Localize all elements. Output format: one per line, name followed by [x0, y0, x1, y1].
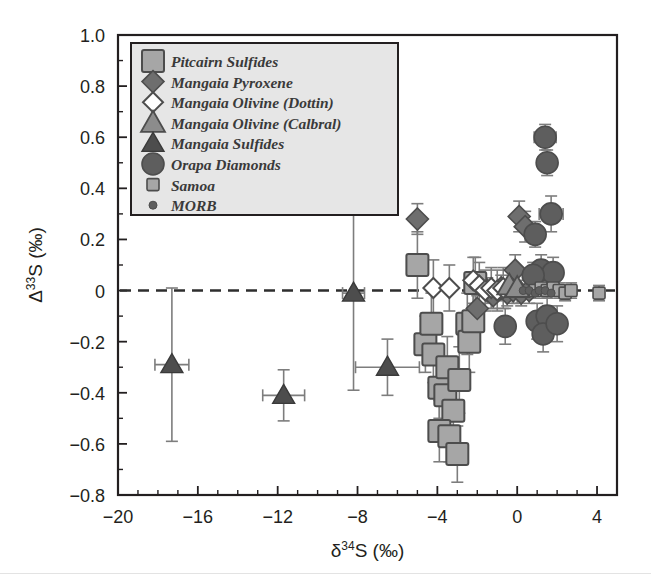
x-tick-label: −16	[183, 507, 214, 527]
data-point	[534, 126, 556, 148]
y-tick-label: −0.8	[69, 486, 105, 506]
plot-canvas: −20−16−12−8−404−0.8−0.6−0.4−0.200.20.40.…	[0, 0, 651, 587]
data-point	[542, 262, 564, 284]
legend-label: Samoa	[171, 177, 215, 194]
legend-marker-icon	[142, 50, 164, 72]
data-point	[448, 369, 470, 391]
data-point	[494, 315, 516, 337]
y-tick-label: 0	[95, 282, 105, 302]
legend-label: Mangaia Sulfides	[170, 135, 284, 152]
legend-label: Mangaia Pyroxene	[170, 74, 293, 91]
y-tick-label: −0.6	[69, 435, 105, 455]
data-point	[420, 313, 442, 335]
legend-label: Mangaia Olivine (Dottin)	[170, 94, 334, 112]
data-point	[540, 203, 562, 225]
x-axis-label: δ34S (‰)	[331, 539, 405, 561]
x-tick-label: −8	[347, 507, 368, 527]
data-point	[547, 289, 555, 297]
data-point	[593, 287, 605, 299]
legend-item-mangaia-olivine-dottin-[interactable]: Mangaia Olivine (Dottin)	[143, 92, 334, 112]
legend-item-pitcairn-sulfides[interactable]: Pitcairn Sulfides	[142, 50, 278, 72]
data-point	[439, 278, 459, 298]
data-point	[546, 313, 568, 335]
data-point	[406, 208, 428, 230]
legend: Pitcairn SulfidesMangaia PyroxeneMangaia…	[131, 43, 398, 215]
y-tick-label: −0.4	[69, 384, 105, 404]
data-point	[161, 354, 183, 373]
legend-label: Mangaia Olivine (Calbral)	[170, 115, 342, 133]
legend-marker-icon	[142, 153, 164, 175]
y-tick-label: 0.8	[80, 77, 105, 97]
figure-scatter-sulfur-isotopes: −20−16−12−8−404−0.8−0.6−0.4−0.200.20.40.…	[0, 0, 651, 587]
x-tick-label: −20	[103, 507, 134, 527]
legend-item-samoa[interactable]: Samoa	[147, 177, 215, 194]
legend-label: MORB	[170, 197, 217, 214]
bottom-rule	[0, 573, 651, 574]
data-point	[406, 254, 428, 276]
x-tick-label: 0	[512, 507, 522, 527]
legend-label: Orapa Diamonds	[171, 156, 281, 173]
data-point	[442, 400, 464, 422]
legend-marker-icon	[149, 201, 157, 209]
data-point	[446, 443, 468, 465]
data-point	[565, 285, 577, 297]
series-mangaia-sulfides	[161, 282, 399, 403]
x-tick-label: −12	[262, 507, 293, 527]
data-point	[458, 331, 480, 353]
data-point	[524, 223, 546, 245]
x-tick-label: 4	[592, 507, 602, 527]
y-tick-label: 0.6	[80, 128, 105, 148]
legend-item-mangaia-olivine-calbral-[interactable]: Mangaia Olivine (Calbral)	[141, 111, 342, 133]
y-axis-label: Δ33S (‰)	[24, 227, 46, 303]
y-tick-label: −0.2	[69, 333, 105, 353]
data-point	[536, 152, 558, 174]
y-tick-label: 1.0	[80, 26, 105, 46]
data-point	[273, 384, 295, 403]
legend-label: Pitcairn Sulfides	[171, 53, 278, 70]
legend-marker-icon	[147, 179, 159, 191]
x-tick-label: −4	[427, 507, 448, 527]
y-tick-label: 0.4	[80, 179, 105, 199]
y-tick-label: 0.2	[80, 230, 105, 250]
data-point	[376, 356, 398, 375]
